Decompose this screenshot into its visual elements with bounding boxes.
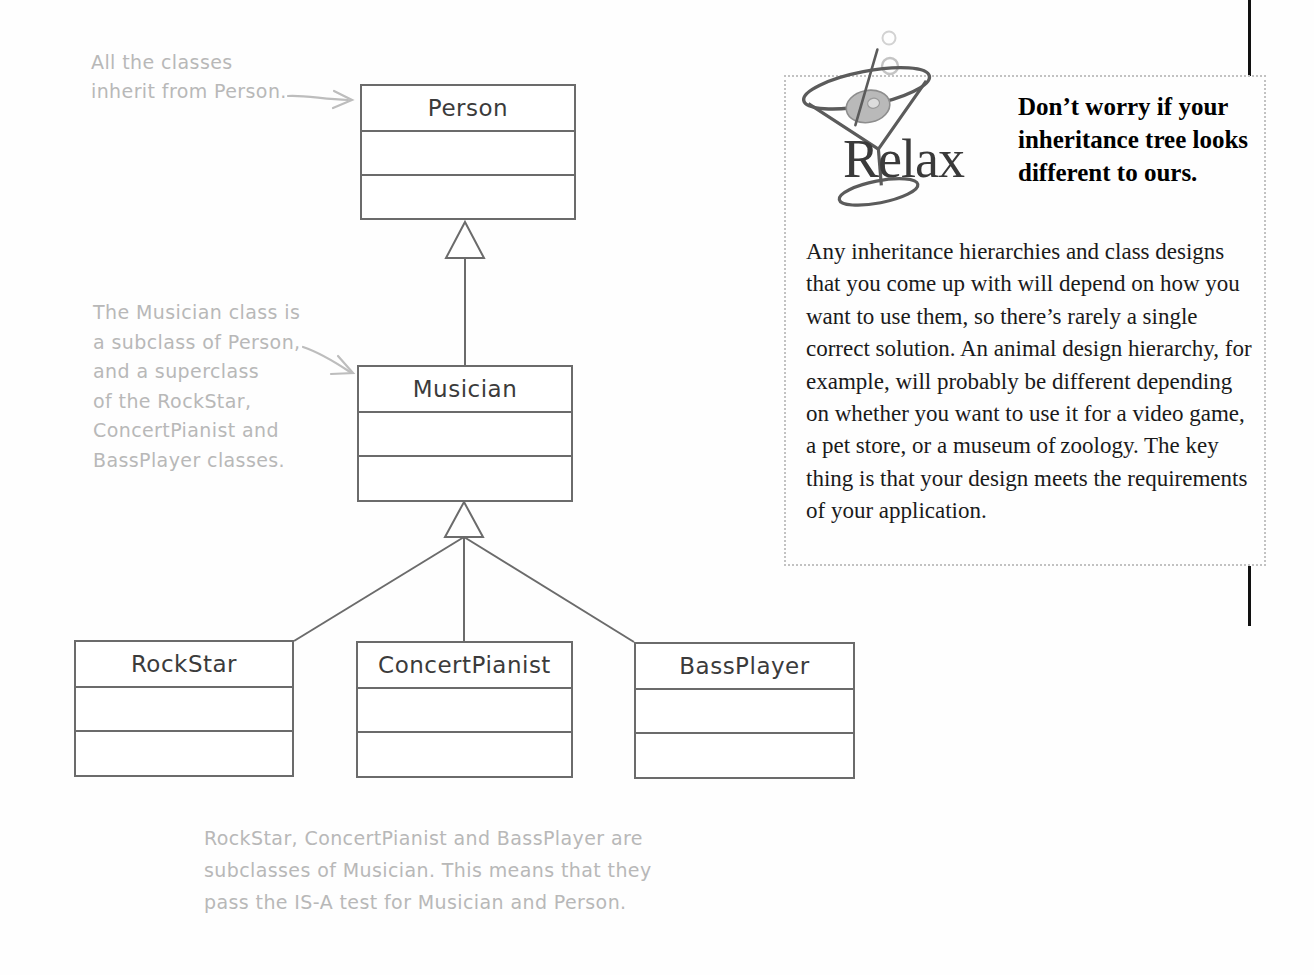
uml-attributes-compartment-rockstar (76, 688, 292, 732)
uml-class-person[interactable]: Person (360, 84, 576, 220)
uml-class-name-musician: Musician (359, 367, 571, 413)
uml-class-name-person: Person (362, 86, 574, 132)
uml-methods-compartment-rockstar (76, 732, 292, 777)
relax-body-text: Any inheritance hierarchies and class de… (806, 236, 1258, 528)
uml-class-bassplayer[interactable]: BassPlayer (634, 642, 855, 779)
uml-methods-compartment-person (362, 176, 574, 220)
uml-methods-compartment-concertpianist (358, 733, 571, 778)
page-rule-top (1248, 0, 1251, 76)
uml-attributes-compartment-person (362, 132, 574, 176)
uml-methods-compartment-bassplayer (636, 734, 853, 779)
uml-class-concertpianist[interactable]: ConcertPianist (356, 641, 573, 778)
annotation-top-left: All the classes inherit from Person. (91, 48, 321, 106)
book-page: Person Musician RockStar ConcertPianist … (0, 0, 1314, 975)
uml-class-musician[interactable]: Musician (357, 365, 573, 502)
relax-heading: Don’t worry if your inheritance tree loo… (1018, 90, 1268, 189)
uml-attributes-compartment-bassplayer (636, 690, 853, 734)
uml-class-name-bassplayer: BassPlayer (636, 644, 853, 690)
uml-attributes-compartment-musician (359, 413, 571, 457)
uml-class-rockstar[interactable]: RockStar (74, 640, 294, 777)
uml-class-name-rockstar: RockStar (76, 642, 292, 688)
inheritance-arrow-musician-subclasses (294, 502, 634, 642)
page-rule-bottom (1248, 566, 1251, 626)
annotation-mid-left: The Musician class is a subclass of Pers… (93, 298, 343, 475)
uml-methods-compartment-musician (359, 457, 571, 502)
relax-label: Relax (843, 128, 964, 190)
inheritance-arrow-person-musician (446, 222, 484, 366)
uml-class-name-concertpianist: ConcertPianist (358, 643, 571, 689)
annotation-bottom: RockStar, ConcertPianist and BassPlayer … (204, 822, 714, 918)
uml-attributes-compartment-concertpianist (358, 689, 571, 733)
